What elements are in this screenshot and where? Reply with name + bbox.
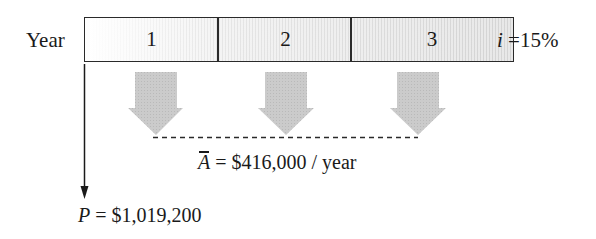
annuity-arrow-icon [128, 72, 183, 135]
annuity-value: $416,000 [232, 151, 307, 173]
annuity-arrow-icon [258, 72, 314, 135]
annuity-equals: = [210, 151, 231, 173]
present-symbol: P [78, 204, 90, 226]
present-worth-arrow-icon [81, 64, 89, 199]
present-worth-label: P = $1,019,200 [78, 204, 202, 227]
present-value: $1,019,200 [112, 204, 202, 226]
annuity-symbol: A [198, 151, 210, 174]
annuity-arrow-icon [390, 72, 446, 135]
present-equals: = [90, 204, 111, 226]
annuity-unit: / year [307, 151, 357, 173]
annuity-label: A = $416,000 / year [198, 151, 356, 174]
